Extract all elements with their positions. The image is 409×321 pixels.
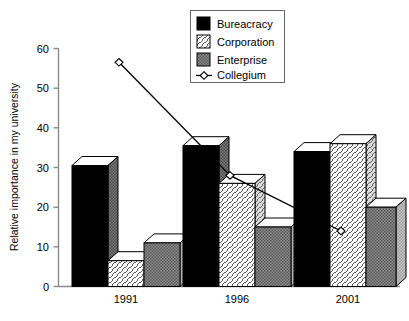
legend-swatch-solid-black-icon [197,17,210,30]
bar-front-face [183,146,219,287]
legend: Bureacracy Corporation Enterprise Colleg… [191,11,285,83]
legend-label-collegium: Collegium [217,69,266,81]
x-axis-label-1996: 1996 [225,293,249,305]
legend-swatch-checker-gray-icon [197,53,210,66]
legend-swatch-diagonal-hatch-icon [197,35,210,48]
bar-front-face [144,243,180,287]
legend-label-bureacracy: Bureacracy [217,18,273,30]
bar-group-2001 [294,135,406,287]
legend-item-bureacracy[interactable]: Bureacracy [197,17,273,30]
legend-item-enterprise[interactable]: Enterprise [197,53,267,66]
bar-front-face [330,144,366,287]
bar-front-face [366,207,396,286]
y-tick-label-20: 20 [37,201,49,213]
bar-group-1991 [72,157,190,287]
y-tick-label-60: 60 [37,43,49,55]
x-axis-label-1991: 1991 [114,293,138,305]
y-axis-title: Relative importance in my university [8,82,20,251]
legend-item-corporation[interactable]: Corporation [197,35,274,48]
y-tick-label-10: 10 [37,241,49,253]
bar-front-face [294,152,330,287]
y-tick-label-0: 0 [43,281,49,293]
bar-side-face [396,198,406,286]
y-axis-ticks [54,49,59,287]
bar-chart-svg: 0 10 20 30 40 50 60 Relative importance … [0,0,409,321]
bar-group-1996 [183,137,301,287]
bar-front-face [72,166,108,287]
y-tick-label-50: 50 [37,82,49,94]
bar-front-face [219,183,255,286]
y-tick-label-40: 40 [37,122,49,134]
legend-label-enterprise: Enterprise [217,54,267,66]
bar-front-face [108,261,144,287]
chart-container: 0 10 20 30 40 50 60 Relative importance … [0,0,409,321]
bar-front-face [255,227,291,287]
x-axis-label-2001: 2001 [336,293,360,305]
x-axis-labels: 1991 1996 2001 [114,293,360,305]
y-tick-label-30: 30 [37,162,49,174]
bar-enterprise-2001 [366,198,406,286]
legend-label-corporation: Corporation [217,36,274,48]
